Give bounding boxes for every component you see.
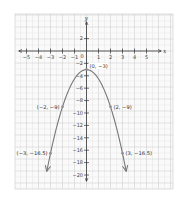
data-point bbox=[109, 106, 112, 109]
data-point bbox=[121, 152, 124, 155]
data-point bbox=[61, 106, 64, 109]
grid bbox=[15, 14, 173, 189]
x-tick-label: 5 bbox=[145, 54, 148, 60]
x-tick-label: −3 bbox=[47, 54, 54, 60]
point-label: (2, −9) bbox=[114, 104, 132, 110]
point-label: (−2, −9) bbox=[37, 104, 60, 110]
parabola-chart: xy0 −5−4−3−2−1123452−2−4−6−8−10−12−14−16… bbox=[0, 0, 180, 197]
origin-label: 0 bbox=[81, 53, 84, 59]
y-tick-label: −6 bbox=[76, 85, 83, 91]
y-tick-label: 2 bbox=[80, 35, 83, 41]
data-point bbox=[49, 152, 52, 155]
y-tick-label: −12 bbox=[72, 122, 83, 128]
x-tick-label: 3 bbox=[121, 54, 124, 60]
y-axis-label: y bbox=[84, 14, 89, 22]
x-tick-label: −2 bbox=[59, 54, 66, 60]
y-tick-label: −18 bbox=[72, 159, 83, 165]
x-tick-label: 2 bbox=[109, 54, 112, 60]
x-tick-label: −5 bbox=[23, 54, 30, 60]
x-tick-label: −4 bbox=[35, 54, 42, 60]
y-tick-label: −20 bbox=[72, 172, 83, 178]
y-tick-label: −14 bbox=[72, 135, 83, 141]
y-tick-label: −10 bbox=[72, 110, 83, 116]
point-label: (−3, −16.5) bbox=[17, 150, 48, 156]
x-tick-label: 4 bbox=[133, 54, 136, 60]
y-tick-label: −2 bbox=[76, 60, 83, 66]
y-tick-label: −16 bbox=[72, 147, 83, 153]
point-label: (3, −16.5) bbox=[126, 150, 153, 156]
y-tick-label: −8 bbox=[76, 97, 83, 103]
x-tick-label: −1 bbox=[71, 54, 78, 60]
data-point bbox=[85, 68, 88, 71]
point-label: (0, −3) bbox=[90, 63, 108, 69]
x-tick-label: 1 bbox=[97, 54, 100, 60]
